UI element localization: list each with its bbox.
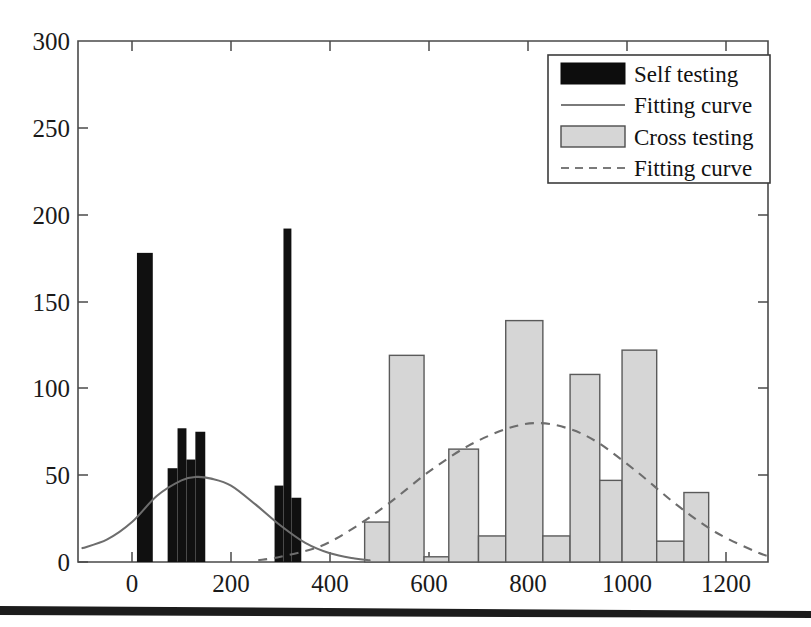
bar-cross-testing-4: [479, 536, 506, 562]
legend-swatch-self-testing: [561, 63, 625, 84]
bar-self-testing-2: [178, 428, 187, 562]
legend-swatch-cross-testing: [561, 126, 625, 147]
bar-cross-testing-1: [389, 355, 424, 562]
x-tick-label-1000: 1000: [602, 570, 652, 597]
y-tick-label-50: 50: [45, 462, 70, 489]
bar-self-testing-4: [195, 432, 205, 562]
bar-cross-testing-3: [449, 449, 479, 562]
bar-cross-testing-10: [657, 541, 684, 562]
bar-cross-testing-9: [622, 350, 657, 562]
y-tick-label-300: 300: [33, 28, 71, 55]
y-tick-label-100: 100: [33, 375, 71, 402]
x-tick-label-600: 600: [410, 570, 448, 597]
legend-label-self-testing: Self testing: [634, 62, 739, 87]
bar-cross-testing-7: [570, 374, 600, 562]
bar-self-testing-3: [186, 460, 195, 562]
bar-cross-testing-0: [365, 522, 390, 562]
chart-figure: 0 50 100 150 200 250 300 0 200: [0, 0, 811, 627]
bar-self-testing-6: [283, 229, 291, 562]
bar-cross-testing-2: [424, 557, 449, 562]
x-tick-label-400: 400: [311, 570, 349, 597]
histogram-fitting-curve-chart: 0 50 100 150 200 250 300 0 200: [0, 0, 811, 627]
cross-testing-bars: [365, 321, 709, 562]
legend-label-fitting-curve-cross: Fitting curve: [634, 156, 752, 181]
y-tick-label-200: 200: [33, 202, 71, 229]
bar-cross-testing-8: [600, 480, 622, 562]
legend: Self testing Fitting curve Cross testing…: [548, 55, 770, 183]
x-tick-label-1200: 1200: [701, 570, 751, 597]
x-tick-label-200: 200: [212, 570, 250, 597]
x-tick-label-800: 800: [509, 570, 547, 597]
y-tick-label-150: 150: [33, 289, 71, 316]
x-tick-label-0: 0: [126, 570, 139, 597]
bar-cross-testing-5: [506, 321, 543, 562]
legend-label-cross-testing: Cross testing: [634, 125, 754, 150]
bar-cross-testing-11: [684, 493, 709, 562]
y-tick-label-0: 0: [58, 549, 71, 576]
y-tick-label-250: 250: [33, 115, 71, 142]
bar-cross-testing-6: [543, 536, 570, 562]
legend-label-fitting-curve-self: Fitting curve: [634, 93, 752, 118]
